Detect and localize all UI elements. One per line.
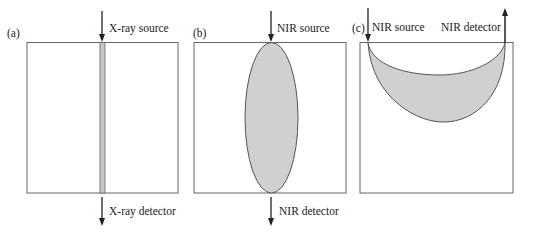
nir-source-label-b: NIR source [277, 23, 330, 35]
nir-source-label-c: NIR source [372, 22, 425, 34]
xray-detector-label: X-ray detector [109, 206, 176, 218]
panel-label-b: (b) [193, 28, 206, 40]
panel-c [360, 8, 513, 193]
arrowhead-icon [365, 34, 371, 42]
arrowhead-icon [268, 218, 274, 226]
xray-source-label: X-ray source [109, 23, 169, 35]
arrowhead-icon [268, 34, 274, 42]
panel-label-c: (c) [352, 23, 365, 35]
arrowhead-icon [99, 218, 105, 226]
nir-detector-label-b: NIR detector [279, 206, 339, 218]
nir-detector-label-c: NIR detector [441, 22, 501, 34]
panel-label-a: (a) [7, 28, 20, 40]
diagram-canvas [0, 0, 533, 234]
arrowhead-icon [502, 8, 508, 16]
panel-b [194, 11, 346, 226]
xray-path-strip [100, 43, 105, 194]
photon-banana-ellipse [245, 43, 298, 194]
panel-a [27, 11, 178, 226]
arrowhead-icon [99, 34, 105, 42]
